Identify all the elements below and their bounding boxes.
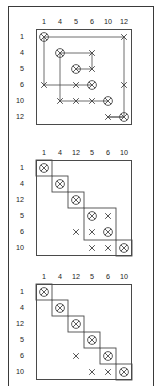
x-icon (70, 350, 82, 362)
circled-x-icon (102, 350, 114, 362)
x-icon (86, 366, 98, 378)
circled-x-icon (118, 366, 130, 378)
x-icon (102, 366, 114, 378)
circled-x-icon (54, 302, 66, 314)
circled-x-icon (86, 334, 98, 346)
circled-x-icon (70, 318, 82, 330)
circled-x-icon (38, 286, 50, 298)
